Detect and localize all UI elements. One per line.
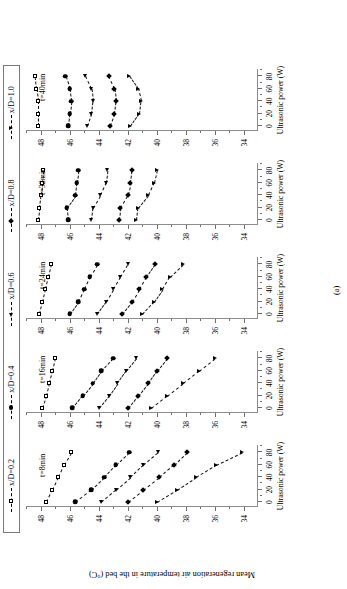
- filled-circle-marker: [111, 356, 116, 361]
- filled-down-triangle-marker: [149, 406, 153, 410]
- y-axis-title: Mean regeneration air temperature in the…: [26, 570, 318, 579]
- y-tick-minor: [55, 319, 56, 322]
- y-tick-minor: [142, 131, 143, 134]
- x-tick-minor: [260, 94, 263, 95]
- y-tick: [70, 507, 71, 511]
- open-square-marker: [49, 262, 53, 266]
- filled-left-triangle-marker: [105, 168, 109, 172]
- filled-down-triangle-marker: [152, 181, 156, 185]
- y-tick-label: 48: [36, 139, 45, 147]
- x-tick-minor: [260, 445, 263, 446]
- x-tick-label: 60: [265, 273, 274, 280]
- filled-down-triangle-marker: [152, 300, 156, 304]
- open-square-marker: [9, 499, 13, 503]
- y-tick-minor: [171, 413, 172, 416]
- filled-down-triangle-marker: [214, 463, 218, 467]
- filled-diamond-marker: [8, 219, 14, 225]
- x-tick-minor: [260, 401, 263, 402]
- filled-circle-marker: [95, 262, 100, 267]
- filled-down-triangle-marker: [137, 112, 141, 116]
- open-square-marker: [50, 488, 54, 492]
- x-tick-label: 20: [265, 298, 274, 305]
- legend-label: x/D=0.2: [7, 459, 16, 486]
- filled-circle-marker: [90, 381, 95, 386]
- filled-down-triangle-marker: [128, 124, 132, 128]
- y-tick: [128, 131, 129, 135]
- filled-circle-marker: [88, 275, 93, 280]
- x-tick-label: 40: [265, 286, 274, 293]
- legend-item-2: x/D=0.4: [7, 366, 16, 419]
- filled-down-triangle-marker: [168, 275, 172, 279]
- legend: x/D=0.2x/D=0.4x/D=0.6x/D=0.8x/D=1.0: [3, 65, 20, 533]
- plot-area: 0204060803436384042444648t=8minUltrasoni…: [26, 445, 258, 507]
- x-tick-label: 20: [265, 392, 274, 399]
- y-tick-label: 42: [123, 421, 132, 429]
- y-tick: [70, 413, 71, 417]
- x-tick-label: 60: [265, 179, 274, 186]
- filled-left-triangle-marker: [134, 356, 138, 360]
- x-tick-label: 0: [265, 406, 274, 410]
- filled-left-triangle-marker: [107, 394, 111, 398]
- x-tick-minor: [260, 364, 263, 365]
- panel-t40min: 0204060803436384042444648t=40minUltrason…: [26, 63, 318, 157]
- filled-left-triangle-marker: [91, 99, 95, 103]
- legend-line-sample: [8, 208, 16, 232]
- y-tick: [215, 413, 216, 417]
- x-tick-minor: [260, 69, 263, 70]
- x-tick-label: 0: [265, 218, 274, 222]
- filled-diamond-marker: [112, 86, 118, 92]
- y-tick: [186, 131, 187, 135]
- y-tick: [41, 225, 42, 229]
- x-tick-minor: [260, 458, 263, 459]
- panel-t16min: 0204060803436384042444648t=16minUltrason…: [26, 345, 318, 439]
- x-tick-minor: [260, 388, 263, 389]
- x-tick: [258, 395, 262, 396]
- y-tick-minor: [26, 507, 27, 510]
- panel-time-label: t=24min: [38, 262, 47, 289]
- legend-item-4: x/D=0.8: [7, 179, 16, 232]
- y-tick-label: 42: [123, 515, 132, 523]
- filled-left-triangle-marker: [9, 313, 13, 317]
- legend-label: x/D=0.8: [7, 179, 16, 206]
- x-axis-title: Ultrasonic power (W): [276, 160, 285, 228]
- x-tick-minor: [260, 82, 263, 83]
- y-tick-label: 46: [65, 327, 74, 335]
- filled-left-triangle-marker: [104, 181, 108, 185]
- filled-circle-marker: [76, 299, 81, 304]
- open-square-marker: [44, 394, 48, 398]
- filled-left-triangle-marker: [115, 381, 119, 385]
- y-tick-label: 38: [181, 233, 190, 241]
- y-tick-label: 42: [123, 327, 132, 335]
- open-square-marker: [36, 218, 40, 222]
- open-square-marker: [47, 381, 51, 385]
- filled-circle-marker: [66, 124, 71, 129]
- y-tick-label: 44: [94, 421, 103, 429]
- x-tick: [258, 313, 262, 314]
- y-tick: [41, 319, 42, 323]
- filled-circle-marker: [9, 405, 14, 410]
- x-tick: [258, 382, 262, 383]
- legend-line-sample: [8, 115, 16, 139]
- filled-circle-marker: [70, 406, 75, 411]
- x-axis-title: Ultrasonic power (W): [276, 66, 285, 134]
- filled-circle-marker: [63, 74, 68, 79]
- x-tick: [258, 288, 262, 289]
- filled-circle-marker: [67, 87, 72, 92]
- filled-left-triangle-marker: [156, 450, 160, 454]
- y-tick: [186, 507, 187, 511]
- y-tick-label: 34: [239, 421, 248, 429]
- legend-item-3: x/D=0.6: [7, 272, 16, 325]
- legend-line-sample: [8, 302, 16, 326]
- y-tick: [99, 413, 100, 417]
- y-tick-minor: [84, 319, 85, 322]
- open-square-marker: [36, 124, 40, 128]
- y-tick-label: 34: [239, 233, 248, 241]
- filled-left-triangle-marker: [111, 287, 115, 291]
- filled-down-triangle-marker: [197, 369, 201, 373]
- y-tick-minor: [113, 507, 114, 510]
- y-tick-label: 44: [94, 515, 103, 523]
- y-tick-minor: [229, 225, 230, 228]
- legend-label: x/D=0.4: [7, 366, 16, 393]
- y-tick-label: 48: [36, 327, 45, 335]
- x-tick: [258, 113, 262, 114]
